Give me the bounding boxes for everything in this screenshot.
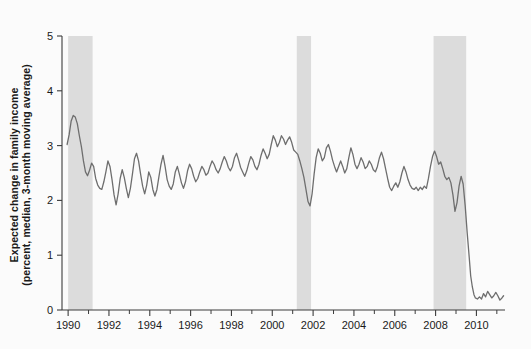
x-tick-label: 2010	[464, 319, 488, 331]
x-tick-label: 2002	[301, 319, 325, 331]
x-tick-label: 1998	[219, 319, 243, 331]
y-tick-label: 2	[47, 194, 53, 206]
x-tick-label: 2004	[342, 319, 366, 331]
x-tick-label: 1990	[56, 319, 80, 331]
tick-marks	[57, 36, 497, 316]
x-tick-label: 1992	[97, 319, 121, 331]
x-tick-label: 2000	[260, 319, 284, 331]
recession-band	[297, 36, 311, 310]
y-tick-labels: 012345	[47, 30, 53, 316]
x-tick-labels: 1990199219941996199820002002200420062008…	[56, 319, 489, 331]
y-tick-label: 3	[47, 140, 53, 152]
plot-area: 012345 199019921994199619982000200220042…	[0, 0, 531, 349]
x-tick-label: 1994	[138, 319, 162, 331]
x-tick-label: 2008	[423, 319, 447, 331]
y-tick-label: 1	[47, 249, 53, 261]
recession-band	[434, 36, 467, 310]
x-tick-label: 2006	[383, 319, 407, 331]
y-tick-label: 5	[47, 30, 53, 42]
y-tick-label: 0	[47, 304, 53, 316]
x-tick-label: 1996	[178, 319, 202, 331]
chart-figure: Expected change in family income (percen…	[0, 0, 531, 349]
y-tick-label: 4	[47, 85, 53, 97]
